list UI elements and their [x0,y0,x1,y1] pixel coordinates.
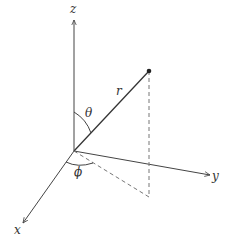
point-marker [147,69,152,74]
y-axis-label: y [212,170,219,182]
theta-label: θ [85,107,92,119]
z-axis-label: z [70,3,76,15]
x-axis-label: x [14,224,21,236]
spherical-coordinates-diagram: z y x r θ ϕ [0,0,230,241]
phi-label: ϕ [74,166,82,178]
diagram-svg [0,0,230,241]
r-label: r [116,85,122,97]
